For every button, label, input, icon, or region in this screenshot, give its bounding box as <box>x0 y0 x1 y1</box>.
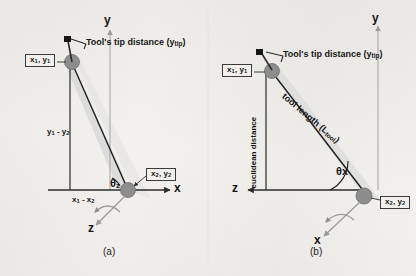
panel-b-p2-mid: , y <box>393 197 402 206</box>
panel-b-euclidean-distance-label: euclidean distance <box>250 117 258 189</box>
panel-a-z-axis <box>96 196 125 225</box>
panel-a-tool-shaft <box>72 63 128 190</box>
panel-b-z-axis-label: z <box>232 182 238 195</box>
panel-a-dx-mid: - x <box>80 195 92 204</box>
panel-b-theta-sub: x <box>342 165 348 177</box>
panel-a-theta-sub: z <box>116 181 120 190</box>
panel-b-caption: (b) <box>310 247 322 258</box>
panel-b-p2-y-sub: 2 <box>402 200 405 206</box>
figure-canvas: y x z Tool's tip distance (ytip) x1, y1 … <box>0 0 416 276</box>
panel-a-z-axis-label: z <box>88 222 94 235</box>
panel-a-dx-sub2: 2 <box>91 198 94 204</box>
panel-a-tool-tip-distance-label: Tool's tip distance (ytip) <box>86 38 185 48</box>
panel-a-y-axis-label: y <box>104 14 111 27</box>
panel-a-z-rotation-arrow <box>95 206 120 212</box>
panel-a-p1-mid: , y <box>38 55 47 64</box>
panel-b-tip-end: ) <box>379 49 382 59</box>
panel-b-tip-leader <box>266 52 283 56</box>
panel-a-origin-joint <box>121 183 136 198</box>
panel-b-p1-y-sub: 1 <box>244 68 247 74</box>
panel-a-theta-label: θz <box>110 178 120 191</box>
panel-a-dy-sub2: 2 <box>66 130 69 136</box>
panel-a-tip-end: ) <box>182 37 185 47</box>
panel-a-tool-tip-marker <box>64 36 71 42</box>
panel-b-point1-box: x1, y1 <box>222 64 252 77</box>
panel-b-tip-text: Tool's tip distance (y <box>283 49 371 59</box>
diagram-svg <box>0 0 416 276</box>
panel-a-p1-y-sub: 1 <box>47 58 50 64</box>
panel-a-dy-mid: - y <box>55 127 67 136</box>
panel-b-x-axis-label: x <box>314 234 321 247</box>
panel-a-dy-label: y1 - y2 <box>47 128 69 136</box>
panel-b-tool-tip-distance-label: Tool's tip distance (ytip) <box>283 50 382 60</box>
panel-b-tool-tip-marker <box>256 49 263 55</box>
panel-b-origin-joint <box>356 188 372 204</box>
panel-a-point1-box: x1, y1 <box>25 54 55 67</box>
panel-a-caption: (a) <box>103 247 115 258</box>
panel-a-x-axis-label: x <box>174 182 181 195</box>
panel-b-theta-label: θx <box>336 166 348 178</box>
panel-b-point2-box: x2, y2 <box>380 196 410 209</box>
panel-a-p2-mid: , y <box>159 169 168 178</box>
panel-b-p1-mid: , y <box>235 65 244 74</box>
panel-b-y-axis-label: y <box>372 12 379 25</box>
panel-a-tip-text: Tool's tip distance (y <box>86 37 174 47</box>
panel-a-dx-label: x1 - x2 <box>72 196 94 204</box>
panel-b-tool-joint <box>265 64 280 79</box>
panel-a-tip-leader <box>71 39 86 44</box>
panel-a-p2-y-sub: 2 <box>168 172 171 178</box>
panel-a-point2-box: x2, y2 <box>146 168 176 181</box>
